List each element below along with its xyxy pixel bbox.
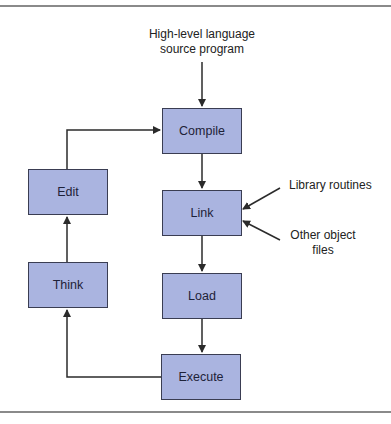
execute-label: Execute <box>178 370 223 384</box>
source-program-label: High-level language source program <box>142 27 262 57</box>
library-label-text: Library routines <box>289 178 372 192</box>
link-label: Link <box>191 206 214 220</box>
execute-box: Execute <box>161 354 241 400</box>
arrow-execute-to-think <box>67 310 161 377</box>
arrow-other-to-link <box>243 221 280 240</box>
link-box: Link <box>162 190 242 236</box>
other-object-files-label: Other object files <box>283 228 363 258</box>
other-label-line2: files <box>283 243 363 258</box>
edit-label: Edit <box>57 185 79 199</box>
source-label-line2: source program <box>142 42 262 57</box>
edit-box: Edit <box>28 169 108 215</box>
other-label-line1: Other object <box>283 228 363 243</box>
arrow-library-to-link <box>243 188 280 209</box>
arrow-edit-to-compile <box>67 130 160 169</box>
compile-label: Compile <box>179 124 225 138</box>
load-box: Load <box>162 273 242 319</box>
source-label-line1: High-level language <box>142 27 262 42</box>
think-box: Think <box>28 262 108 308</box>
compile-box: Compile <box>162 108 242 154</box>
think-label: Think <box>53 278 84 292</box>
library-routines-label: Library routines <box>289 178 372 193</box>
load-label: Load <box>188 289 216 303</box>
